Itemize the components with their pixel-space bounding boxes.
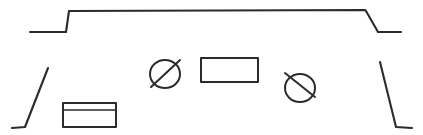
gauge-right-slash — [285, 73, 315, 97]
display-lower-group — [63, 103, 116, 127]
left-post-outline — [12, 68, 48, 128]
display-lower-rectangle — [63, 103, 116, 127]
gauge-left-group — [150, 60, 180, 88]
sketch-canvas: Hand-drawn panel outline sketch Line dra… — [0, 0, 423, 135]
gauge-right-circle — [285, 74, 315, 102]
sketch-drawing — [0, 0, 423, 135]
top-rail-outline — [30, 10, 401, 32]
gauge-right-group — [285, 73, 315, 102]
display-upper-rectangle — [201, 58, 258, 82]
right-post-outline — [380, 62, 412, 128]
